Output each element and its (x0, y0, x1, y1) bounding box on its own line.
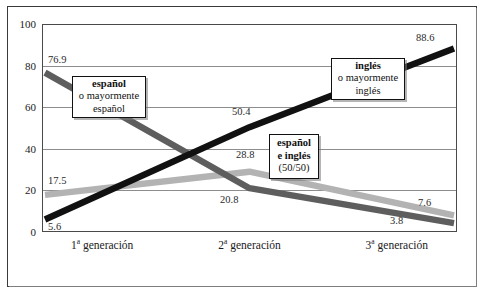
y-tick-40: 40 (25, 143, 36, 154)
callout-spanish-line2: o mayormente (79, 90, 139, 103)
series-lines (43, 25, 456, 231)
callout-english-line1: inglés (355, 60, 381, 73)
value-label-spanish-g3: 3.8 (390, 215, 403, 226)
y-tick-20: 20 (25, 185, 36, 196)
y-tick-60: 60 (25, 102, 36, 113)
callout-mixed-line3: (50/50) (279, 162, 310, 175)
chart-figure: 100 80 60 40 20 0 76.9 17.5 5.6 50.4 28.… (0, 0, 485, 296)
value-label-mixed-g2: 28.8 (236, 149, 254, 160)
value-label-mixed-g3: 7.6 (418, 197, 431, 208)
value-label-spanish-g2: 20.8 (220, 194, 238, 205)
callout-mixed: español e inglés (50/50) (269, 134, 319, 179)
value-label-english-g1: 5.6 (48, 221, 61, 232)
y-tick-0: 0 (31, 227, 37, 238)
callout-english-line3: inglés (355, 85, 380, 98)
callout-english: inglés o mayormente inglés (331, 58, 405, 100)
callout-english-line2: o mayormente (338, 72, 398, 85)
callout-spanish-line1: español (92, 78, 126, 91)
callout-mixed-line1: español (277, 137, 311, 150)
value-label-english-g2: 50.4 (232, 106, 250, 117)
callout-spanish: español o mayormente español (72, 76, 146, 118)
value-label-mixed-g1: 17.5 (48, 175, 66, 186)
x-tick-generacion-3: 3a generación (366, 238, 428, 252)
x-tick-generacion-2: 2a generación (218, 238, 280, 252)
callout-spanish-line3: español (93, 103, 125, 116)
value-label-spanish-g1: 76.9 (48, 54, 66, 65)
value-label-english-g3: 88.6 (416, 32, 434, 43)
x-tick-generacion-1: 1a generación (71, 238, 133, 252)
y-axis: 100 80 60 40 20 0 (0, 24, 42, 232)
callout-mixed-line2: e inglés (278, 150, 311, 163)
y-tick-100: 100 (20, 19, 37, 30)
y-tick-80: 80 (25, 60, 36, 71)
x-axis: 1a generación 2a generación 3a generació… (42, 238, 457, 260)
plot-area: 76.9 17.5 5.6 50.4 28.8 20.8 88.6 7.6 3.… (42, 24, 457, 232)
